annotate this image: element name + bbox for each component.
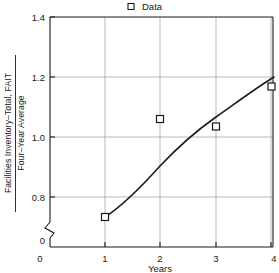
chart-svg: 1.4 1.2 1.0 0.8 0 0 1 2 3 4 Years Facili… xyxy=(0,0,279,273)
y-tick-label-1.0: 1.0 xyxy=(32,132,45,143)
y-axis-title-denominator: Four–Year Average xyxy=(16,95,26,170)
data-point-year-4 xyxy=(268,83,275,90)
data-point-year-3 xyxy=(213,123,220,130)
legend-marker-icon xyxy=(128,4,134,10)
x-axis-title: Years xyxy=(148,263,172,273)
x-tick-label-3: 3 xyxy=(213,253,218,264)
data-point-year-2 xyxy=(157,116,164,123)
y-tick-label-0.8: 0.8 xyxy=(32,192,45,203)
chart-figure: 1.4 1.2 1.0 0.8 0 0 1 2 3 4 Years Facili… xyxy=(0,0,279,273)
legend-label-data: Data xyxy=(142,1,163,12)
y-tick-label-1.4: 1.4 xyxy=(32,12,45,23)
y-tick-label-origin: 0 xyxy=(40,235,45,246)
x-tick-label-1: 1 xyxy=(102,253,107,264)
y-axis-title-numerator: Facilities Inventory–Total, FAIT xyxy=(3,72,13,193)
data-point-year-1 xyxy=(102,214,109,221)
y-tick-label-1.2: 1.2 xyxy=(32,72,45,83)
x-tick-label-0: 0 xyxy=(37,253,42,264)
x-tick-label-4: 4 xyxy=(271,253,276,264)
